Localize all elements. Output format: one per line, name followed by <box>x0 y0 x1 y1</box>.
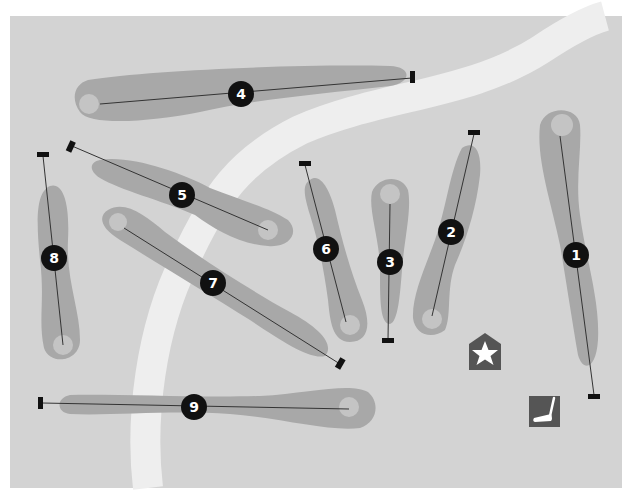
hole-number-1: 1 <box>571 247 581 263</box>
green-3 <box>380 184 400 204</box>
green-2 <box>422 309 442 329</box>
tee-marker-1 <box>588 394 600 399</box>
hole-number-9: 9 <box>189 399 199 415</box>
hole-number-7: 7 <box>208 275 218 291</box>
hole-number-6: 6 <box>321 241 331 257</box>
green-6 <box>340 315 360 335</box>
tee-marker-9 <box>38 397 43 409</box>
golf-course-map: 4 5 7 8 9 <box>0 0 632 502</box>
hole-number-8: 8 <box>49 250 59 266</box>
tee-marker-4 <box>410 71 415 83</box>
hole-number-5: 5 <box>177 187 187 203</box>
tee-marker-2 <box>468 130 480 135</box>
green-4 <box>79 94 99 114</box>
hole-number-2: 2 <box>446 224 456 240</box>
tee-marker-3 <box>382 338 394 343</box>
putter-icon[interactable] <box>529 396 560 427</box>
green-9 <box>339 397 359 417</box>
tee-marker-6 <box>299 161 311 166</box>
hole-number-4: 4 <box>236 86 246 102</box>
green-1 <box>551 114 573 136</box>
tee-marker-8 <box>37 152 49 157</box>
hole-number-3: 3 <box>385 254 395 270</box>
